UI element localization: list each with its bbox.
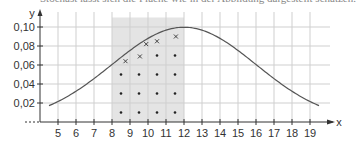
dot-marker (156, 54, 159, 57)
dot-marker (174, 73, 177, 76)
dot-marker (120, 111, 123, 114)
y-tick-label: 0,06 (14, 59, 35, 71)
dot-marker (138, 92, 141, 95)
x-tick-label: 13 (196, 127, 208, 139)
x-tick-label: 8 (109, 127, 115, 139)
dot-marker (156, 92, 159, 95)
x-tick-label: 15 (232, 127, 244, 139)
dot-marker (138, 73, 141, 76)
dot-marker (120, 92, 123, 95)
dot-marker (120, 73, 123, 76)
dot-marker (138, 111, 141, 114)
y-axis-arrow-icon (38, 9, 43, 16)
dot-marker (156, 111, 159, 114)
x-tick-label: 6 (73, 127, 79, 139)
x-tick-label: 9 (127, 127, 133, 139)
x-tick-label: 19 (304, 127, 316, 139)
x-tick-label: 16 (250, 127, 262, 139)
y-tick-label: 0,02 (14, 97, 35, 109)
dot-marker (174, 54, 177, 57)
dot-marker (156, 73, 159, 76)
dot-marker (174, 92, 177, 95)
y-tick-label: 0,08 (14, 40, 35, 52)
x-tick-label: 14 (214, 127, 226, 139)
dot-marker (174, 111, 177, 114)
x-tick-label: 11 (160, 127, 171, 139)
y-tick-label: 0,10 (14, 21, 35, 33)
y-axis-label: y (29, 7, 35, 19)
x-tick-label: 12 (178, 127, 190, 139)
x-tick-label: 5 (55, 127, 61, 139)
y-tick-label: 0,04 (14, 78, 35, 90)
x-axis-arrow-icon (327, 120, 335, 125)
x-tick-label: 17 (268, 127, 280, 139)
x-tick-label: 18 (286, 127, 298, 139)
x-tick-label: 7 (91, 127, 97, 139)
x-tick-label: 10 (142, 127, 154, 139)
x-axis-label: x (336, 116, 342, 128)
